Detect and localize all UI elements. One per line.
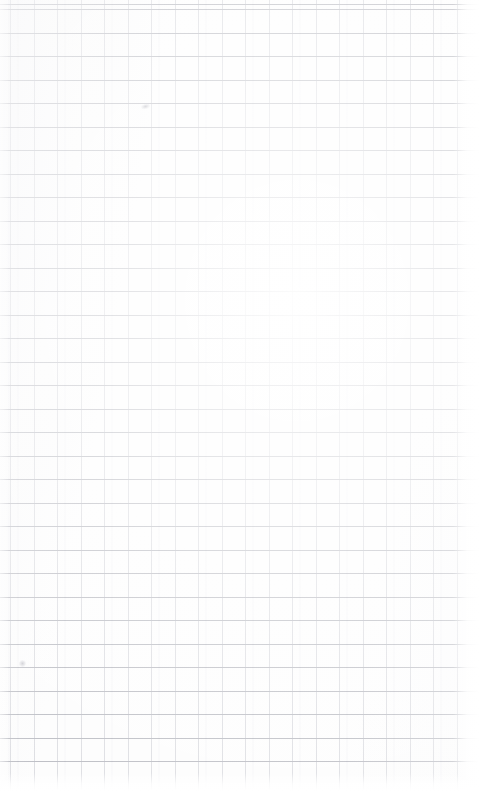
graph-paper-sheet xyxy=(0,0,479,791)
paper-background xyxy=(0,0,479,791)
